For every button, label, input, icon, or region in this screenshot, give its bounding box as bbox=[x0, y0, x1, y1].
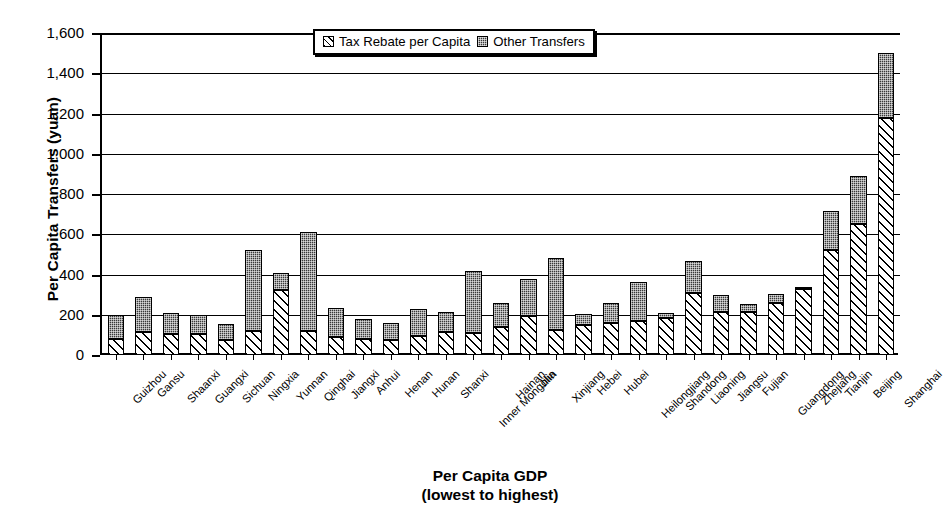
x-tick-label-hunan: Hunan bbox=[430, 368, 462, 400]
x-axis-title: Per Capita GDP (lowest to highest) bbox=[330, 466, 650, 504]
x-axis-title-line1: Per Capita GDP bbox=[330, 466, 650, 485]
checker-swatch-icon bbox=[477, 36, 488, 47]
legend-label-other-transfers: Other Transfers bbox=[493, 34, 585, 49]
legend-item-other-transfers: Other Transfers bbox=[477, 34, 585, 49]
x-tick-label-shanxi: Shanxi bbox=[458, 368, 491, 401]
x-tick-label-beijing: Beijing bbox=[870, 368, 902, 400]
x-tick-label-henan: Henan bbox=[402, 368, 434, 400]
chart-legend: Tax Rebate per Capita Other Transfers bbox=[313, 29, 595, 55]
x-tick-label-shanghai: Shanghai bbox=[902, 368, 944, 410]
legend-label-tax-rebate: Tax Rebate per Capita bbox=[339, 34, 470, 49]
legend-item-tax-rebate: Tax Rebate per Capita bbox=[323, 34, 470, 49]
x-tick-label-hubei: Hubei bbox=[621, 368, 650, 397]
hatch-swatch-icon bbox=[323, 36, 334, 47]
x-axis-title-line2: (lowest to highest) bbox=[330, 485, 650, 504]
